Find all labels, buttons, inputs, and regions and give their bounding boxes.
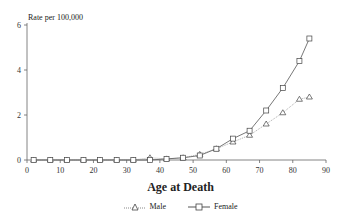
triangle-marker-icon <box>124 203 146 211</box>
legend-label-male: Male <box>150 202 166 211</box>
svg-text:0: 0 <box>25 166 29 175</box>
svg-text:6: 6 <box>17 21 21 30</box>
svg-text:40: 40 <box>156 166 164 175</box>
legend-item-female: Female <box>188 202 238 211</box>
x-axis-label: Age at Death <box>0 180 341 195</box>
legend-label-female: Female <box>214 202 238 211</box>
svg-text:2: 2 <box>17 111 21 120</box>
svg-text:4: 4 <box>17 66 21 75</box>
legend: Male Female <box>0 202 341 211</box>
svg-text:80: 80 <box>289 166 297 175</box>
svg-text:30: 30 <box>123 166 131 175</box>
square-marker-icon <box>188 203 210 211</box>
svg-text:90: 90 <box>322 166 330 175</box>
svg-text:20: 20 <box>89 166 97 175</box>
legend-item-male: Male <box>124 202 166 211</box>
svg-text:70: 70 <box>256 166 264 175</box>
svg-text:10: 10 <box>56 166 64 175</box>
svg-text:50: 50 <box>189 166 197 175</box>
y-axis-label: Rate per 100,000 <box>28 13 83 22</box>
svg-text:60: 60 <box>222 166 230 175</box>
svg-text:0: 0 <box>17 156 21 165</box>
